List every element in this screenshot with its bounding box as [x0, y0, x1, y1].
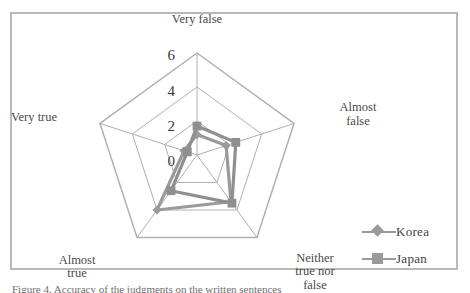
legend-item-japan[interactable]: Japan [362, 245, 458, 272]
radial-tick-6: 6 [139, 47, 175, 64]
axis-label-very-false: Very false [142, 13, 252, 27]
axis-label-almost-true: Almost true [35, 254, 119, 281]
figure-container: Very false Almost false Neither true nor… [0, 0, 470, 293]
chart-legend: Korea Japan [362, 218, 458, 272]
radial-tick-2: 2 [139, 118, 175, 135]
figure-caption: Figure 4. Accuracy of the judgments on t… [12, 283, 452, 293]
legend-label-korea: Korea [396, 224, 429, 240]
axis-label-almost-false: Almost false [316, 101, 400, 128]
radial-tick-4: 4 [139, 83, 175, 100]
diamond-marker-icon [362, 226, 396, 238]
legend-label-japan: Japan [396, 251, 427, 267]
radial-tick-0: 0 [139, 153, 175, 170]
square-marker-icon [362, 253, 396, 265]
legend-item-korea[interactable]: Korea [362, 218, 458, 245]
axis-label-very-true: Very true [0, 111, 76, 125]
